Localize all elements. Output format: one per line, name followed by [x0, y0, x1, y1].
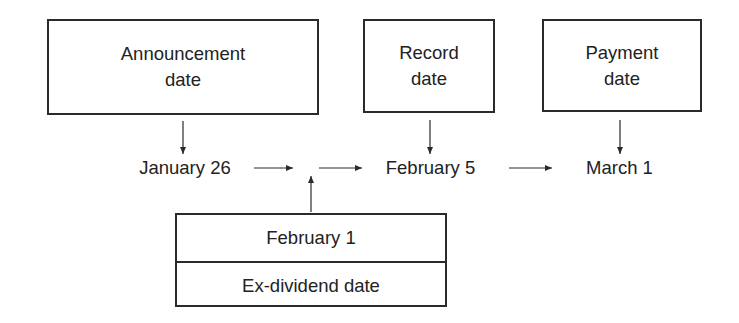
- record-date-box: Record date: [363, 19, 495, 113]
- payment-date-box: Payment date: [542, 19, 702, 112]
- ex-dividend-date-label: Ex-dividend date: [177, 263, 445, 309]
- announcement-box-label-line1: Announcement: [121, 41, 245, 67]
- announcement-date-box: Announcement date: [47, 19, 319, 115]
- announcement-box-label-line2: date: [121, 67, 245, 93]
- record-date-value: February 5: [379, 157, 482, 179]
- ex-dividend-date-value: February 1: [177, 215, 445, 263]
- payment-box-label-line2: date: [585, 66, 658, 92]
- payment-date-value: March 1: [581, 157, 658, 179]
- announcement-date-value: January 26: [131, 157, 239, 179]
- record-box-label-line1: Record: [399, 40, 459, 66]
- payment-box-label-line1: Payment: [585, 40, 658, 66]
- ex-dividend-date-box: February 1 Ex-dividend date: [175, 213, 447, 307]
- record-box-label-line2: date: [399, 66, 459, 92]
